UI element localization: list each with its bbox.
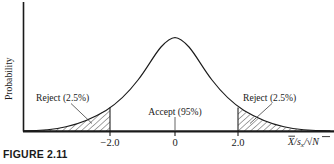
xlabel-radicand: N	[311, 136, 320, 147]
x-tick-label-2: 2.0	[231, 137, 244, 148]
reject-right-label: Reject (2.5%)	[243, 92, 296, 104]
reject-region-left	[26, 100, 112, 132]
normal-distribution-plot: −2.0 0 2.0 Reject (2.5%) Reject (2.5%) A…	[0, 0, 334, 164]
y-axis-label: Probability	[3, 57, 14, 100]
reject-left-label: Reject (2.5%)	[36, 92, 89, 104]
x-axis-label: X/sx/√N	[287, 136, 330, 149]
reject-region-right	[236, 100, 324, 132]
reject-left-leader	[71, 104, 92, 124]
svg-text:X/sx/√N: X/sx/√N	[287, 136, 320, 149]
xlabel-slash: /s	[293, 136, 301, 147]
figure-caption: FIGURE 2.11	[3, 148, 68, 160]
x-tick-label--2: −2.0	[100, 137, 119, 148]
accept-label: Accept (95%)	[148, 106, 202, 118]
figure-container: −2.0 0 2.0 Reject (2.5%) Reject (2.5%) A…	[0, 0, 334, 164]
x-tick-label-0: 0	[172, 137, 177, 148]
